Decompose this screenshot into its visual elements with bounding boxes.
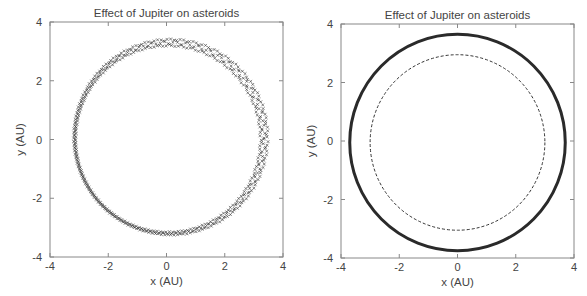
y-tick-label: 4 bbox=[327, 18, 333, 30]
x-tick-label: 0 bbox=[163, 260, 169, 272]
figure: Effect of Jupiter on asteroids-4-2024-4-… bbox=[0, 0, 587, 296]
inner-orbit-series bbox=[370, 55, 545, 231]
y-tick-label: 2 bbox=[327, 77, 333, 89]
axes-box bbox=[50, 22, 283, 257]
x-tick-label: 2 bbox=[222, 260, 228, 272]
y-tick-label: 2 bbox=[36, 75, 42, 87]
y-tick-label: -2 bbox=[32, 192, 42, 204]
y-axis-label: y (AU) bbox=[14, 123, 26, 156]
chart-title: Effect of Jupiter on asteroids bbox=[94, 7, 240, 19]
y-tick-label: 0 bbox=[36, 134, 42, 146]
chart-panel-2: Effect of Jupiter on asteroids-4-2024-4-… bbox=[305, 9, 577, 288]
x-tick-label: 2 bbox=[513, 261, 519, 273]
orbit-band-series bbox=[72, 38, 269, 237]
chart-panel-1: Effect of Jupiter on asteroids-4-2024-4-… bbox=[14, 7, 286, 287]
y-tick-label: -4 bbox=[32, 251, 42, 263]
x-axis-label: x (AU) bbox=[441, 276, 474, 288]
y-axis-label: y (AU) bbox=[305, 125, 317, 158]
x-tick-label: 0 bbox=[454, 261, 460, 273]
outer-orbit-series bbox=[350, 34, 566, 250]
y-tick-label: -4 bbox=[323, 252, 333, 264]
x-axis-label: x (AU) bbox=[150, 275, 183, 287]
x-tick-label: 4 bbox=[280, 260, 286, 272]
x-tick-label: -4 bbox=[336, 261, 346, 273]
x-tick-label: 4 bbox=[571, 261, 577, 273]
y-tick-label: -2 bbox=[323, 194, 333, 206]
y-tick-label: 4 bbox=[36, 16, 42, 28]
x-tick-label: -2 bbox=[394, 261, 404, 273]
axes-box bbox=[341, 24, 574, 258]
x-tick-label: -2 bbox=[103, 260, 113, 272]
chart-title: Effect of Jupiter on asteroids bbox=[385, 9, 531, 21]
y-tick-label: 0 bbox=[327, 135, 333, 147]
x-tick-label: -4 bbox=[45, 260, 55, 272]
